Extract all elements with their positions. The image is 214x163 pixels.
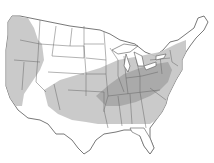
map-svg	[0, 0, 214, 163]
range-map	[0, 0, 214, 163]
